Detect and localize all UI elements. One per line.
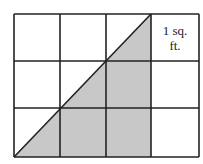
unit-label-line2: ft. [169,38,180,53]
grid-diagram: 1 sq. ft. [0,0,203,164]
unit-label-line1: 1 sq. [163,23,188,38]
